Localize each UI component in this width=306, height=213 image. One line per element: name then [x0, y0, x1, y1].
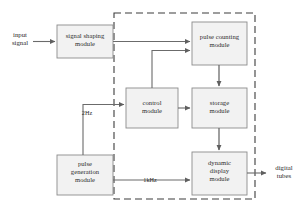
- storage-module-box[interactable]: [192, 88, 247, 128]
- pulse-counting-module-box[interactable]: [192, 22, 247, 65]
- connector-pulse-generation-to-control-2hz: [83, 105, 124, 156]
- dynamic-display-module-box[interactable]: [192, 152, 247, 195]
- pulse-generation-module-box[interactable]: [57, 155, 113, 195]
- control-module-box[interactable]: [126, 88, 178, 128]
- block-diagram: signal shaping module pulse counting mod…: [0, 0, 306, 213]
- diagram-canvas: [0, 0, 306, 213]
- signal-shaping-module-box[interactable]: [57, 25, 113, 58]
- connector-control-to-pulse-counting: [152, 51, 190, 89]
